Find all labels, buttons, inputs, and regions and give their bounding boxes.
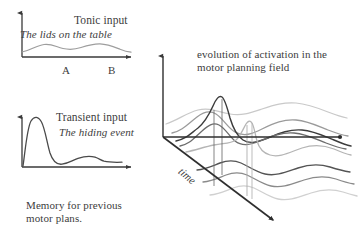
memory-note: Memory for previousmotor plans. (26, 199, 122, 226)
field-trace-t3-peak (176, 96, 351, 146)
tonic-axis-label-b: B (108, 64, 115, 77)
figure-canvas: Tonic input The lids on the table A B Tr… (0, 0, 358, 238)
transient-input-curve (23, 117, 122, 166)
tonic-input-curve (22, 44, 131, 52)
transient-input-chart (22, 117, 131, 167)
field-time-axis (163, 137, 273, 220)
field-trace-t2 (172, 112, 348, 136)
transient-input-subtitle: The hiding event (59, 126, 134, 139)
field-x-axis-endpoint (338, 135, 342, 139)
tonic-input-subtitle: The lids on the table (20, 28, 112, 41)
memory-note-line1: Memory for previous (26, 199, 122, 211)
field-trace-t6 (197, 161, 350, 175)
memory-note-line2: motor plans. (26, 212, 82, 224)
transient-input-title: Transient input (56, 110, 127, 124)
field-caption: evolution of activation in themotor plan… (197, 48, 327, 75)
field-trace-t8 (210, 186, 357, 200)
field-caption-line1: evolution of activation in the (197, 48, 327, 60)
motor-planning-field-chart (163, 56, 357, 220)
tonic-input-title: Tonic input (74, 13, 128, 27)
field-caption-line2: motor planning field (197, 61, 289, 73)
tonic-axis-label-a: A (62, 64, 70, 77)
